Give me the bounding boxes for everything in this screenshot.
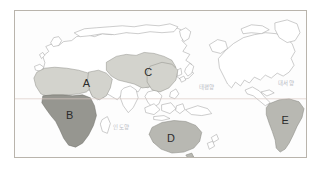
region-label-d: D <box>167 132 175 144</box>
ocean-label-atlantic: 대서양 <box>278 79 294 87</box>
world-map-svg: 인도양 태평양 대서양 A B C D E <box>15 11 306 157</box>
ocean-label-pacific: 태평양 <box>199 83 215 91</box>
ocean-label-indian: 인도양 <box>113 123 129 130</box>
region-label-e: E <box>281 114 288 126</box>
region-label-c: C <box>144 66 152 78</box>
world-map-figure: 인도양 태평양 대서양 A B C D E <box>0 0 319 172</box>
region-label-a: A <box>83 77 91 89</box>
region-label-b: B <box>66 109 73 121</box>
map-frame: 인도양 태평양 대서양 A B C D E <box>14 10 307 158</box>
